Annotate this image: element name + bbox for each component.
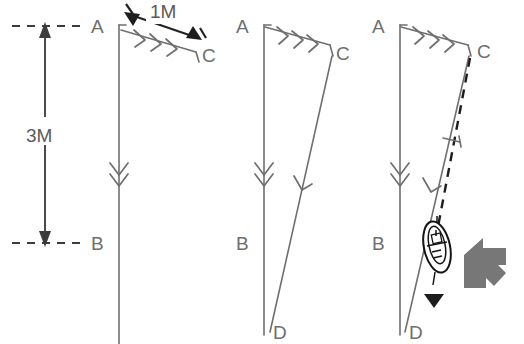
perpendicular-tick-panel-3	[443, 136, 461, 147]
bearing-dashed-line-panel-3	[437, 58, 470, 232]
panel-2: A B C	[236, 16, 350, 343]
dimension-1m-label: 1M	[150, 1, 176, 22]
diagram-canvas: 3M A B	[0, 0, 524, 344]
panel-1: 3M A B	[12, 0, 216, 344]
label-a-panel-3: A	[372, 16, 385, 37]
label-d-panel-3: D	[409, 322, 423, 343]
label-c-panel-1: C	[202, 45, 216, 66]
dimension-3m-label: 3M	[26, 125, 52, 146]
label-a-panel-2: A	[236, 16, 249, 37]
label-c-panel-3: C	[477, 41, 491, 62]
current-vector-panel-2	[265, 27, 333, 56]
label-a-panel-1: A	[91, 16, 104, 37]
panel-3: A B C	[372, 16, 506, 343]
label-b-panel-2: B	[236, 233, 249, 254]
diagram-svg: 3M A B	[0, 0, 524, 344]
heading-arrowhead-panel-3	[424, 294, 444, 308]
label-c-panel-2: C	[336, 43, 350, 64]
label-d-panel-2: D	[273, 322, 287, 343]
label-b-panel-1: B	[91, 233, 104, 254]
boat-icon	[419, 216, 455, 285]
gray-pointer-arrow-icon	[464, 238, 506, 288]
track-line-panel-2	[270, 56, 332, 332]
track-line-panel-3	[405, 56, 469, 332]
current-vector-panel-3	[401, 27, 471, 56]
label-b-panel-3: B	[372, 233, 385, 254]
